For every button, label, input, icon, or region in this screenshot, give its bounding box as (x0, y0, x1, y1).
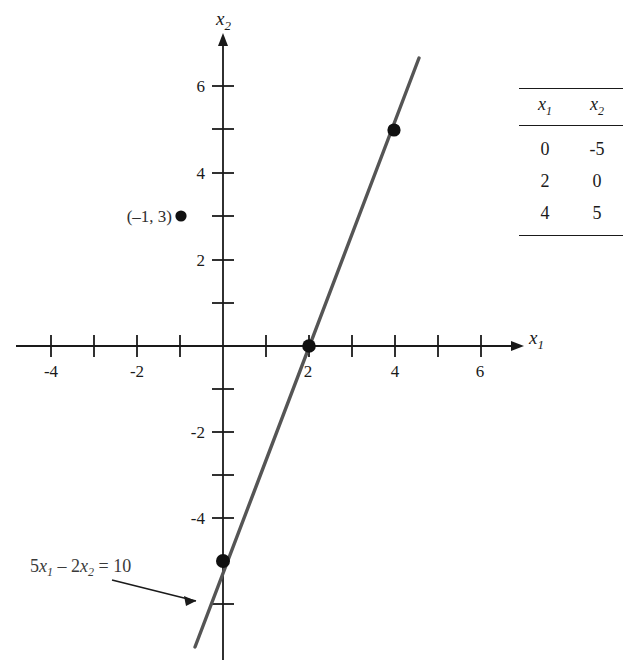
table-row: 0 -5 (519, 133, 623, 165)
x-tick-labels: -4 -2 2 4 6 (44, 362, 484, 381)
table-spacer-top (519, 126, 623, 133)
data-point-0-neg5 (216, 554, 230, 568)
table-cell-x2: 0 (571, 165, 623, 197)
x-tick-label-2: 2 (304, 362, 313, 381)
y-axis-label: x2 (215, 8, 231, 33)
y-tick-label-neg2: -2 (191, 423, 205, 442)
data-point-2-0 (302, 339, 316, 353)
table-cell-x2: 5 (571, 197, 623, 229)
y-tick-label-6: 6 (197, 77, 206, 96)
table-rule-bottom (519, 235, 623, 236)
x-tick-label-6: 6 (476, 362, 485, 381)
x-axis-arrowhead (511, 341, 524, 351)
figure-root: x1 x2 -4 -2 2 4 6 6 4 2 -2 -4 (–1, 3) (0, 0, 631, 662)
y-tick-labels: 6 4 2 -2 -4 (191, 77, 206, 528)
equation-label: 5x1 – 2x2 = 10 (30, 556, 131, 579)
point-label-neg1-3: (–1, 3) (127, 207, 172, 226)
y-tick-label-4: 4 (197, 164, 206, 183)
table-header-x2: x2 (571, 89, 623, 125)
equation-leader-arrow (112, 580, 196, 606)
table-header-row: x1 x2 (519, 89, 623, 125)
table-cell-x2: -5 (571, 133, 623, 165)
x-axis-label: x1 (528, 327, 544, 352)
table-header-x1: x1 (519, 89, 571, 125)
x-tick-label-neg4: -4 (44, 362, 59, 381)
x-axis (16, 335, 524, 357)
value-table: x1 x2 0 -5 2 0 4 5 (519, 88, 623, 236)
table-cell-x1: 0 (519, 133, 571, 165)
y-tick-label-neg4: -4 (191, 509, 206, 528)
x-tick-label-4: 4 (391, 362, 400, 381)
table-row: 4 5 (519, 197, 623, 229)
data-point-4-5 (387, 123, 400, 136)
y-tick-label-2: 2 (197, 251, 206, 270)
x-tick-label-neg2: -2 (130, 362, 144, 381)
table-cell-x1: 4 (519, 197, 571, 229)
table-cell-x1: 2 (519, 165, 571, 197)
y-axis-arrowhead (218, 33, 228, 46)
data-point-neg1-3 (175, 210, 186, 221)
table-row: 2 0 (519, 165, 623, 197)
